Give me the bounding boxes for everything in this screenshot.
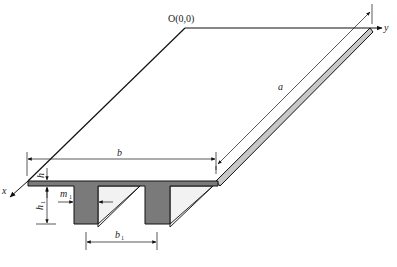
- y-axis-label: y: [383, 22, 389, 33]
- dimension-m1-label: m: [60, 188, 67, 199]
- dimension-h1-label: h: [34, 205, 45, 210]
- plate-top-surface: [28, 28, 370, 181]
- origin-label: O(0,0): [168, 13, 194, 25]
- dimension-b1: b 1: [86, 229, 157, 250]
- dimension-h1: h 1: [34, 188, 56, 224]
- dimension-h-label: h: [35, 173, 46, 178]
- dimension-b-label: b: [117, 147, 122, 158]
- dimension-m1-subscript: 1: [69, 194, 72, 200]
- x-axis: x: [1, 181, 28, 197]
- dimension-h1-subscript: 1: [40, 201, 46, 204]
- dimension-b1-subscript: 1: [121, 235, 124, 241]
- dimension-a-label: a: [278, 81, 283, 92]
- x-axis-label: x: [1, 185, 7, 196]
- dimension-b1-label: b: [115, 229, 120, 240]
- ribbed-plate-diagram: x y O(0,0) a b h h 1 m: [0, 0, 397, 267]
